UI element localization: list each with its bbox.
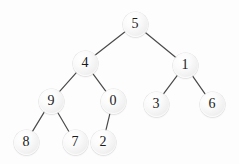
tree-node[interactable]: 8: [14, 130, 39, 155]
tree-node-label: 0: [110, 94, 117, 108]
tree-node-label: 4: [82, 56, 89, 70]
tree-node-label: 3: [153, 97, 160, 111]
tree-node[interactable]: 6: [200, 92, 225, 117]
tree-node-label: 2: [100, 135, 107, 149]
tree-node[interactable]: 0: [101, 89, 126, 114]
tree-node-label: 9: [48, 94, 55, 108]
tree-node-layer: 5419036872: [0, 0, 239, 164]
tree-node[interactable]: 2: [91, 130, 116, 155]
tree-node[interactable]: 3: [144, 92, 169, 117]
tree-node[interactable]: 9: [39, 89, 64, 114]
binary-tree-diagram: 5419036872: [0, 0, 239, 164]
tree-node-label: 8: [23, 135, 30, 149]
tree-node-label: 5: [132, 17, 139, 31]
tree-node-label: 7: [72, 135, 79, 149]
tree-node[interactable]: 4: [73, 51, 98, 76]
tree-node[interactable]: 5: [123, 12, 148, 37]
tree-node-label: 6: [209, 97, 216, 111]
tree-node[interactable]: 1: [173, 53, 198, 78]
tree-node-label: 1: [182, 58, 189, 72]
tree-node[interactable]: 7: [63, 130, 88, 155]
